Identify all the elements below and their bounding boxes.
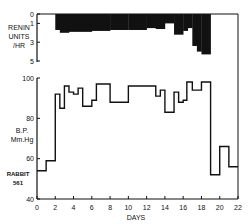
renin-y-ticks: 0135 (30, 11, 40, 65)
renin-bar (60, 14, 69, 33)
bp-tick-label: 40 (26, 196, 34, 203)
renin-bars (55, 14, 211, 54)
x-tick-label: 22 (234, 204, 242, 211)
renin-tick-label: 3 (30, 39, 34, 46)
renin-label-line: UNITS (9, 33, 30, 40)
bp-tick-label: 100 (22, 75, 34, 82)
bp-step-line (37, 82, 238, 175)
x-tick-label: 2 (53, 204, 57, 211)
bp-tick-label: 80 (26, 115, 34, 122)
x-tick-label: 10 (124, 204, 132, 211)
x-tick-label: 18 (198, 204, 206, 211)
renin-bar (192, 14, 197, 46)
annotation-line: 561 (13, 180, 24, 186)
x-tick-label: 6 (90, 204, 94, 211)
renin-tick-label: 1 (30, 20, 34, 27)
renin-bar (128, 14, 147, 30)
renin-panel: 0135 RENINUNITS/HR (8, 11, 238, 65)
x-tick-label: 12 (143, 204, 151, 211)
x-tick-label: 16 (179, 204, 187, 211)
annotation-line: RABBIT (7, 171, 30, 177)
renin-tick-label: 5 (30, 58, 34, 65)
x-ticks: 0246810121416182022 (35, 196, 242, 211)
x-tick-label: 14 (161, 204, 169, 211)
x-tick-label: 8 (108, 204, 112, 211)
bp-label-line: B.P. (16, 127, 28, 134)
renin-y-label: RENINUNITS/HR (8, 24, 30, 49)
x-tick-label: 0 (35, 204, 39, 211)
x-axis-label: DAYS (127, 214, 146, 221)
renin-bar (92, 14, 111, 31)
bp-label-line: Mm.Hg (11, 136, 34, 144)
renin-tick-label: 0 (30, 11, 34, 18)
renin-label-line: RENIN (8, 24, 30, 31)
x-tick-label: 4 (72, 204, 76, 211)
x-tick-label: 20 (216, 204, 224, 211)
renin-bar (201, 14, 210, 54)
renin-bar (55, 14, 60, 30)
renin-bar (188, 14, 193, 28)
renin-bar (174, 14, 183, 35)
renin-bp-chart: 0135 RENINUNITS/HR 406080100 02468101214… (0, 0, 251, 224)
renin-bar (197, 14, 202, 52)
bp-y-label: B.P.Mm.Hg (11, 127, 34, 144)
renin-label-line: /HR (13, 42, 25, 49)
renin-bar (165, 14, 174, 23)
rabbit-annotation: RABBIT561 (7, 171, 30, 186)
renin-bar (156, 14, 165, 29)
renin-bar (110, 14, 129, 30)
bp-tick-label: 60 (26, 155, 34, 162)
renin-bar (147, 14, 156, 28)
renin-bar (69, 14, 92, 32)
renin-bar (183, 14, 188, 31)
